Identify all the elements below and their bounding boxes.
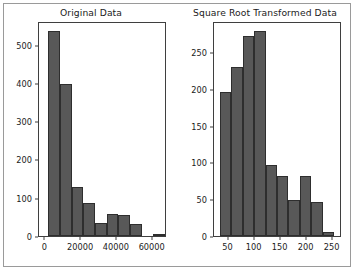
y-tick-label: 300 [16,117,32,127]
x-axis-sqrt-transformed-data: 50100150200250 [213,237,341,259]
x-axis-original-data: 0200004000060000 [38,237,166,259]
y-tick-label: 200 [191,85,207,95]
x-tick-label: 200 [298,242,314,252]
y-tick-label: 150 [191,122,207,132]
y-tick-label: 100 [191,158,207,168]
x-tick-mark [305,237,306,240]
histogram-bar [243,36,254,236]
x-tick-mark [279,237,280,240]
histogram-bar [311,202,322,236]
y-tick-mark [35,198,38,199]
histogram-bar [118,215,130,236]
histogram-bar [48,31,60,236]
bars-sqrt-transformed-data [214,23,340,236]
x-tick-mark [331,237,332,240]
histogram-bar [254,31,265,236]
x-tick-label: 20000 [67,242,93,252]
x-tick-label: 150 [272,242,288,252]
histogram-bar [266,165,277,236]
y-tick-label: 0 [202,232,207,242]
x-tick-mark [227,237,228,240]
y-tick-label: 50 [197,195,207,205]
x-tick-label: 0 [42,242,47,252]
y-tick-label: 400 [16,79,32,89]
figure-frame: Original Data 0100200300400500 020000400… [3,3,351,267]
x-tick-label: 250 [324,242,340,252]
y-tick-mark [35,45,38,46]
bars-original-data [39,23,165,236]
axes-original-data [38,22,166,237]
histogram-bar [83,203,95,236]
x-tick-mark [115,237,116,240]
histogram-bar [72,187,84,236]
x-tick-label: 40000 [103,242,129,252]
x-tick-label: 100 [246,242,262,252]
y-tick-mark [210,89,213,90]
y-tick-mark [210,126,213,127]
histogram-bar [231,67,242,236]
x-tick-mark [151,237,152,240]
y-tick-label: 0 [27,232,32,242]
y-tick-label: 200 [16,155,32,165]
x-tick-label: 50 [222,242,232,252]
chart-panel-sqrt-transformed-data: Square Root Transformed Data 05010015020… [178,4,352,266]
histogram-bar [277,176,288,236]
y-tick-label: 100 [16,194,32,204]
y-tick-mark [210,52,213,53]
axes-sqrt-transformed-data [213,22,341,237]
y-axis-sqrt-transformed-data: 050100150200250 [178,4,213,237]
y-tick-label: 500 [16,41,32,51]
y-tick-mark [35,83,38,84]
x-tick-label: 60000 [139,242,165,252]
histogram-bar [220,92,231,236]
x-tick-mark [80,237,81,240]
y-tick-label: 250 [191,48,207,58]
x-tick-mark [253,237,254,240]
histogram-bar [107,214,119,236]
y-tick-mark [210,200,213,201]
histogram-bar [323,232,334,236]
y-tick-mark [35,160,38,161]
x-tick-mark [44,237,45,240]
histogram-bar [95,223,107,236]
y-axis-original-data: 0100200300400500 [4,4,38,237]
histogram-bar [300,176,311,236]
histogram-bar [153,234,165,236]
chart-panel-original-data: Original Data 0100200300400500 020000400… [4,4,178,266]
y-tick-mark [35,122,38,123]
histogram-bar [60,84,72,236]
y-tick-mark [210,163,213,164]
histogram-bar [288,200,299,236]
histogram-bar [130,224,142,236]
